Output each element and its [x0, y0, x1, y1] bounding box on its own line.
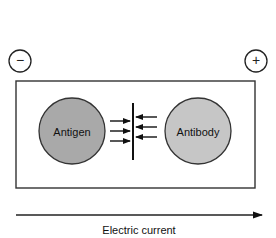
- antibody-label: Antibody: [177, 126, 220, 138]
- positive-sign: +: [252, 53, 260, 67]
- antigen-label: Antigen: [53, 126, 90, 138]
- negative-sign: −: [16, 53, 24, 67]
- electric-current-label: Electric current: [102, 224, 175, 236]
- immunoelectrophoresis-diagram: [0, 0, 276, 238]
